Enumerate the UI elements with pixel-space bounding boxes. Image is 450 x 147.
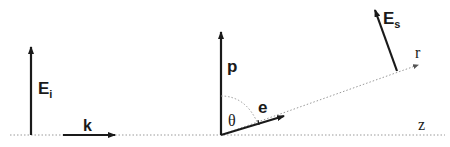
dipole-label: p [227,57,237,76]
z-axis-label: z [418,116,425,133]
wave-vector-label: k [83,117,92,134]
scattered-field-label: Es [383,9,400,30]
scattering-diagram: Ei k p e θ Es r z [0,0,450,147]
incident-field-label: Ei [38,79,52,100]
angle-arc [221,96,258,124]
radial-axis-label: r [415,44,421,61]
angle-label: θ [228,112,236,129]
r-axis-line [221,65,418,135]
unit-vector-label: e [258,98,267,117]
